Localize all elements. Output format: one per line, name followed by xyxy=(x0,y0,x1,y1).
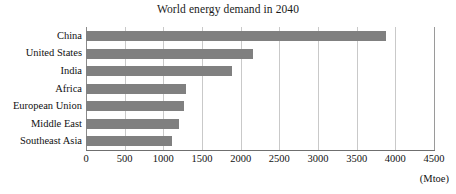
bar xyxy=(86,136,172,146)
bar-row xyxy=(86,27,434,45)
bar-chart-figure: World energy demand in 2040 ChinaUnited … xyxy=(0,0,456,194)
x-tick-label: 0 xyxy=(83,152,88,165)
category-label: China xyxy=(0,30,82,41)
x-tick-label: 2500 xyxy=(269,152,290,165)
x-axis-line xyxy=(86,150,435,151)
bar xyxy=(86,84,186,94)
x-tick-label: 3500 xyxy=(346,152,367,165)
bar-row xyxy=(86,132,434,150)
x-tick-label: 3000 xyxy=(308,152,329,165)
category-label: Southeast Asia xyxy=(0,135,82,146)
bar xyxy=(86,49,253,59)
bar xyxy=(86,101,184,111)
bar xyxy=(86,119,179,129)
bar-row xyxy=(86,45,434,63)
category-label: United States xyxy=(0,47,82,58)
x-tick-label: 500 xyxy=(117,152,133,165)
bar-row xyxy=(86,97,434,115)
unit-label: (Mtoe) xyxy=(420,173,449,184)
gridline-4500 xyxy=(434,27,435,150)
bar-row xyxy=(86,115,434,133)
chart-title: World energy demand in 2040 xyxy=(0,3,456,15)
y-axis-category-labels: ChinaUnited StatesIndiaAfricaEuropean Un… xyxy=(0,27,82,150)
bar xyxy=(86,31,386,41)
bar xyxy=(86,66,232,76)
x-axis-tick-labels: 050010001500200025003000350040004500 xyxy=(86,152,434,168)
category-label: European Union xyxy=(0,100,82,111)
category-label: Middle East xyxy=(0,118,82,129)
x-tick-label: 1500 xyxy=(192,152,213,165)
bar-row xyxy=(86,62,434,80)
plot-area xyxy=(86,27,434,150)
x-tick-label: 4000 xyxy=(385,152,406,165)
x-tick-label: 1000 xyxy=(153,152,174,165)
category-label: Africa xyxy=(0,83,82,94)
category-label: India xyxy=(0,65,82,76)
bars-layer xyxy=(86,27,434,150)
x-tick-label: 2000 xyxy=(230,152,251,165)
x-tick-label: 4500 xyxy=(424,152,445,165)
bar-row xyxy=(86,80,434,98)
